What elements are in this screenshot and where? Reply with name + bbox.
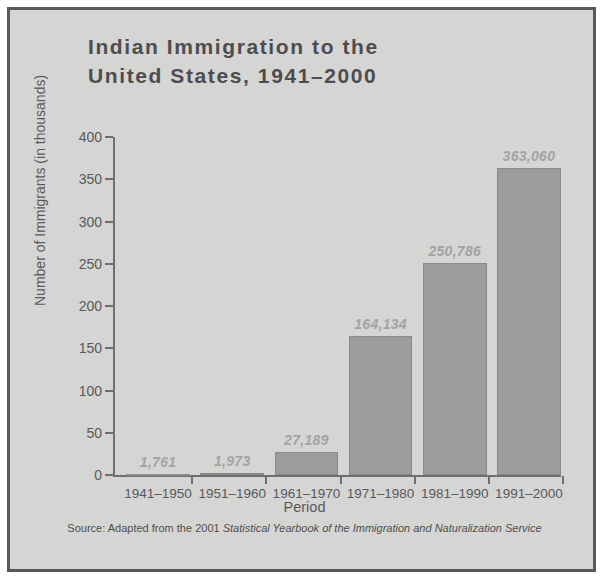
y-tick-label: 200 (79, 298, 102, 314)
y-tick-label: 300 (79, 214, 102, 230)
x-tick-mark (265, 476, 267, 484)
x-tick-mark (191, 476, 193, 484)
bar-1941–1950 (126, 474, 190, 476)
source-publication-title: Statistical Yearbook of the Immigration … (223, 522, 542, 534)
y-tick-label: 50 (86, 425, 102, 441)
y-tick-mark (105, 136, 113, 138)
y-tick-label: 150 (79, 340, 102, 356)
y-tick-mark (105, 347, 113, 349)
x-axis-title: Period (10, 499, 599, 515)
bar-1991–2000 (497, 168, 561, 475)
plot-area: 0501001502002503003504001,7611941–19501,… (113, 137, 558, 475)
bar-value-label: 1,973 (214, 453, 251, 469)
chart-title: Indian Immigration to the United States,… (88, 32, 518, 90)
y-tick-mark (105, 432, 113, 434)
bar-1981–1990 (423, 263, 487, 475)
x-tick-mark (414, 476, 416, 484)
x-tick-mark (488, 476, 490, 484)
y-tick-mark (105, 305, 113, 307)
y-tick-mark (105, 474, 113, 476)
bar-value-label: 363,060 (503, 148, 556, 164)
y-tick-mark (105, 263, 113, 265)
bar-value-label: 164,134 (354, 316, 407, 332)
y-tick-label: 400 (79, 129, 102, 145)
bar-value-label: 27,189 (284, 432, 329, 448)
bar-value-label: 1,761 (140, 454, 177, 470)
bar-1951–1960 (200, 473, 264, 475)
y-axis-title: Number of Immigrants (in thousands) (32, 75, 48, 306)
chart-figure: Indian Immigration to the United States,… (7, 7, 596, 572)
y-tick-mark (105, 390, 113, 392)
y-tick-label: 250 (79, 256, 102, 272)
source-note: Source: Adapted from the 2001 Statistica… (10, 522, 599, 534)
bar-1971–1980 (349, 336, 413, 475)
y-tick-label: 100 (79, 383, 102, 399)
y-tick-label: 0 (94, 467, 102, 483)
source-prefix: Source: Adapted from the 2001 (67, 522, 222, 534)
y-tick-label: 350 (79, 171, 102, 187)
y-tick-mark (105, 221, 113, 223)
bar-1961–1970 (275, 452, 339, 475)
bar-value-label: 250,786 (428, 243, 481, 259)
x-tick-mark (340, 476, 342, 484)
x-tick-mark (562, 476, 564, 484)
y-tick-mark (105, 178, 113, 180)
